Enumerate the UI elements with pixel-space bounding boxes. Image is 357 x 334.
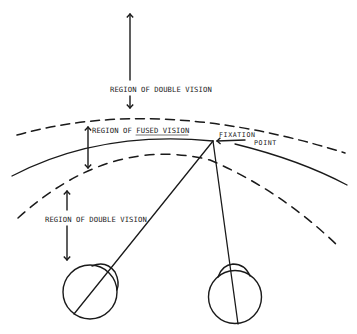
far-double-vision-label: REGION OF DOUBLE VISION bbox=[110, 85, 212, 94]
right-eye-globe bbox=[209, 271, 262, 324]
point-label: POINT bbox=[254, 139, 277, 147]
right-eye bbox=[209, 264, 262, 324]
horopter-curve-right bbox=[235, 144, 347, 185]
right-line-of-sight bbox=[213, 141, 238, 324]
far-double-vision-indicator: REGION OF DOUBLE VISION bbox=[110, 14, 212, 108]
horopter-curve-left bbox=[12, 139, 213, 176]
outer-dashed-boundary bbox=[17, 119, 345, 153]
fused-vision-label: REGION OF FUSED VISION bbox=[92, 126, 189, 135]
fixation-label: FIXATION bbox=[219, 131, 256, 139]
left-eye-globe bbox=[63, 265, 117, 319]
fixation-point-arrow bbox=[217, 140, 245, 141]
fused-vision-indicator: REGION OF FUSED VISION bbox=[88, 126, 189, 168]
near-double-vision-label: REGION OF DOUBLE VISION bbox=[45, 215, 147, 224]
horopter-diagram: REGION OF DOUBLE VISION REGION OF FUSED … bbox=[0, 0, 357, 334]
fixation-point-indicator: FIXATION POINT bbox=[217, 131, 277, 147]
left-line-of-sight bbox=[74, 141, 213, 314]
left-eye bbox=[63, 264, 118, 319]
inner-dashed-boundary bbox=[18, 154, 338, 246]
near-double-vision-indicator: REGION OF DOUBLE VISION bbox=[45, 191, 147, 260]
